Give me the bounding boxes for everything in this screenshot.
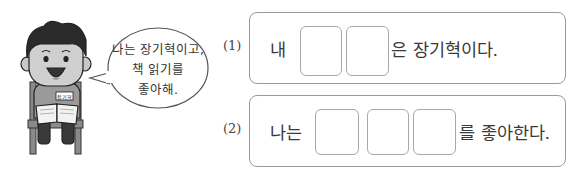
question-1-prefix: 내 <box>270 36 286 61</box>
speech-bubble-text: 나는 장기혁이고, 책 읽기를 좋아해. <box>112 40 204 100</box>
question-1-blank-2[interactable] <box>346 26 389 76</box>
name-tag: 장기혁 <box>57 94 72 101</box>
question-1-number: (1) <box>223 38 241 53</box>
bubble-line-3: 좋아해. <box>112 80 204 100</box>
bubble-line-1: 나는 장기혁이고, <box>112 40 204 60</box>
question-2-blank-3[interactable] <box>413 109 456 155</box>
boy-body: 장기혁 <box>34 80 80 144</box>
question-1-box: 내 은 장기혁이다. <box>249 12 566 84</box>
question-1-blank-1[interactable] <box>300 26 342 76</box>
question-2-prefix: 나는 <box>270 119 302 144</box>
question-2-suffix: 를 좋아한다. <box>459 119 550 144</box>
question-2-blank-2[interactable] <box>367 109 409 155</box>
boy-head <box>21 21 91 86</box>
question-2-box: 나는 를 좋아한다. <box>249 95 566 167</box>
question-2-blank-1[interactable] <box>315 109 359 155</box>
question-1-suffix: 은 장기혁이다. <box>391 36 498 61</box>
bubble-line-2: 책 읽기를 <box>112 60 204 80</box>
question-2-number: (2) <box>223 121 241 136</box>
